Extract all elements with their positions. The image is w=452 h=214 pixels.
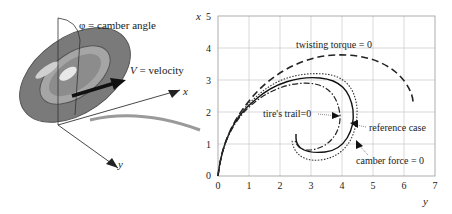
tire-diagram: φ = camber angle V = velocity x y xyxy=(2,8,200,170)
svg-text:2: 2 xyxy=(206,107,211,118)
trajectory-chart: 0 1 2 3 4 5 6 7 0 1 2 3 4 5 y x twisting… xyxy=(195,10,438,207)
annotation-tires-trail: tire's trail=0 xyxy=(263,108,311,119)
svg-text:1: 1 xyxy=(206,139,211,150)
annotation-camber-force: camber force = 0 xyxy=(356,155,424,166)
figure-canvas: φ = camber angle V = velocity x y 0 1 2 … xyxy=(0,0,452,214)
svg-text:5: 5 xyxy=(206,11,211,22)
curve-camber-force xyxy=(218,74,357,176)
camber-angle-label: φ = camber angle xyxy=(79,19,156,31)
svg-text:6: 6 xyxy=(402,180,407,191)
velocity-label: V = velocity xyxy=(130,64,184,76)
svg-text:1: 1 xyxy=(247,180,252,191)
svg-text:3: 3 xyxy=(309,180,314,191)
svg-text:2: 2 xyxy=(278,180,283,191)
svg-text:5: 5 xyxy=(371,180,376,191)
tire-path-curve xyxy=(90,116,200,130)
svg-text:4: 4 xyxy=(340,180,345,191)
svg-text:3: 3 xyxy=(206,75,211,86)
chart-y-axis-label: x xyxy=(195,10,201,22)
curve-tires-trail xyxy=(218,83,340,176)
svg-text:0: 0 xyxy=(206,170,211,181)
svg-text:0: 0 xyxy=(216,180,221,191)
x-tick-labels: 0 1 2 3 4 5 6 7 xyxy=(216,180,438,191)
curve-reference-case xyxy=(218,78,353,176)
svg-text:4: 4 xyxy=(206,43,211,54)
y-axis-label: y xyxy=(117,158,123,170)
annotation-twisting-torque: twisting torque = 0 xyxy=(296,39,372,50)
svg-text:7: 7 xyxy=(433,180,438,191)
annotation-reference-case: reference case xyxy=(369,122,426,133)
chart-x-axis-label: y xyxy=(422,195,428,207)
y-tick-labels: 0 1 2 3 4 5 xyxy=(206,11,211,181)
x-axis-label: x xyxy=(182,85,188,97)
